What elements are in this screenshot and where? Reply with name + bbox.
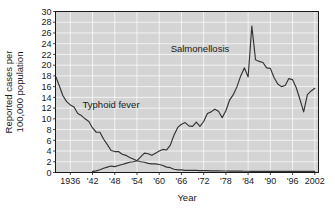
y-tick-label: 0	[46, 168, 51, 178]
y-tick-label: 28	[41, 17, 51, 27]
y-tick-label: 14	[41, 93, 51, 103]
series-annotation: Salmonellosis	[171, 43, 230, 54]
plot-area-background	[56, 12, 319, 173]
x-tick-label: '90	[264, 176, 276, 186]
y-tick-label: 12	[41, 103, 51, 113]
y-tick-label: 4	[46, 146, 51, 156]
y-tick-label: 22	[41, 50, 51, 60]
y-tick-label: 26	[41, 28, 51, 38]
y-tick-label: 8	[46, 125, 51, 135]
y-axis-title-line2: 100,000 population	[14, 52, 25, 133]
x-tick-label: 2002	[305, 176, 325, 186]
x-tick-label: '54	[131, 176, 143, 186]
x-tick-label: 1936	[60, 176, 80, 186]
y-tick-label: 20	[41, 60, 51, 70]
x-tick-label: '66	[176, 176, 188, 186]
y-tick-label: 2	[46, 157, 51, 167]
chart-figure: 024681012141618202224262830 1936'42'48'5…	[0, 0, 335, 210]
x-tick-label: '42	[87, 176, 99, 186]
y-tick-label: 6	[46, 136, 51, 146]
y-tick-label: 16	[41, 82, 51, 92]
y-tick-label: 18	[41, 71, 51, 81]
x-tick-label: '78	[220, 176, 232, 186]
x-tick-label: '72	[198, 176, 210, 186]
x-tick-label: '48	[109, 176, 121, 186]
y-tick-label: 24	[41, 39, 51, 49]
x-tick-label: '96	[287, 176, 299, 186]
series-annotation: Typhoid fever	[83, 99, 140, 110]
y-tick-label: 10	[41, 114, 51, 124]
y-tick-label: 30	[41, 7, 51, 17]
x-tick-label: '60	[153, 176, 165, 186]
x-axis-title: Year	[177, 192, 196, 203]
line-chart: 024681012141618202224262830 1936'42'48'5…	[0, 0, 335, 210]
x-tick-label: '84	[242, 176, 254, 186]
y-axis-title-line1: Reported cases per	[3, 51, 14, 134]
